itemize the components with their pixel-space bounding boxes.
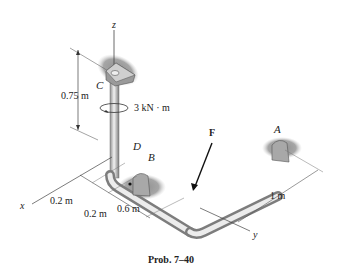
dim-0.75-label: 0.75 m — [61, 91, 89, 101]
arrowhead — [76, 125, 80, 130]
x-axis-label: x — [20, 201, 24, 211]
pipe-vertical — [110, 78, 119, 178]
point-d-label: D — [133, 141, 141, 152]
y-axis-label: y — [253, 230, 257, 240]
ext-line-bottom — [70, 127, 98, 140]
ext-y-a — [285, 150, 323, 172]
z-axis-label: z — [112, 20, 116, 30]
point-c-label: C — [96, 80, 103, 91]
arrowhead — [76, 50, 80, 55]
support-c-hole — [111, 71, 119, 76]
support-a — [272, 140, 289, 162]
force-f-label: F — [209, 128, 215, 138]
dim-x1-label: 0.2 m — [50, 196, 73, 206]
dim-x2-label: 0.2 m — [84, 209, 107, 219]
dim-y-label: 1 m — [270, 191, 285, 201]
figure-caption: Prob. 7–40 — [148, 255, 194, 265]
moment-label: 3 kN · m — [134, 103, 170, 113]
pipe-assembly-diagram — [0, 0, 341, 266]
point-a-label: A — [274, 124, 281, 135]
force-f-arrow — [194, 143, 212, 189]
force-f-arrowhead — [191, 183, 198, 191]
moment-arrowhead — [104, 110, 109, 113]
point-b-label: B — [148, 152, 155, 163]
point-d-dot — [128, 182, 131, 185]
dim-x3-label: 0.6 m — [117, 204, 140, 214]
